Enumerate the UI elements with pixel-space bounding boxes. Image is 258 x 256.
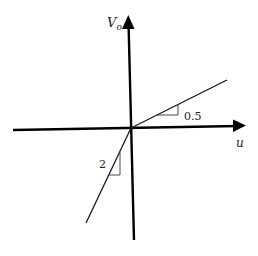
positive-u-segment bbox=[131, 80, 227, 128]
negative-u-segment bbox=[86, 128, 131, 223]
slope-label-0-5: 0.5 bbox=[184, 110, 202, 123]
diagram-canvas: Vo u 0.5 2 bbox=[0, 0, 258, 256]
y-axis-arrow-icon bbox=[122, 15, 135, 29]
y-axis-label: Vo bbox=[107, 15, 122, 32]
slope-label-2: 2 bbox=[99, 158, 106, 171]
x-axis-label: u bbox=[236, 136, 244, 150]
x-axis-arrow-icon bbox=[233, 120, 246, 133]
